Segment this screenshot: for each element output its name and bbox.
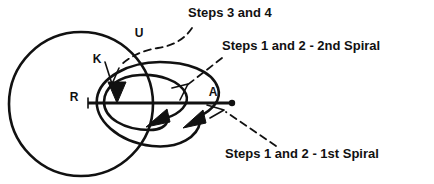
leader-steps-3-and-4 xyxy=(120,28,192,66)
axis-endpoint-dot-a xyxy=(229,100,235,106)
annotation-steps-3-and-4: Steps 3 and 4 xyxy=(188,5,273,20)
node-label-a: A xyxy=(209,85,218,99)
node-label-k: K xyxy=(93,52,102,66)
leader-steps-1-2-1st-spiral xyxy=(226,112,276,146)
figure-canvas: Steps 3 and 4 Steps 1 and 2 - 2nd Spiral… xyxy=(0,0,434,184)
node-label-u: U xyxy=(135,26,144,40)
arrowhead-outer-spiral-icon xyxy=(183,110,206,128)
annotation-steps-1-2-1st-spiral: Steps 1 and 2 - 1st Spiral xyxy=(225,146,379,161)
arrowhead-steps-3-and-4-icon xyxy=(108,82,126,103)
diagram-svg: Steps 3 and 4 Steps 1 and 2 - 2nd Spiral… xyxy=(0,0,434,184)
node-label-r: R xyxy=(70,90,79,104)
annotation-steps-1-2-2nd-spiral: Steps 1 and 2 - 2nd Spiral xyxy=(222,38,380,53)
